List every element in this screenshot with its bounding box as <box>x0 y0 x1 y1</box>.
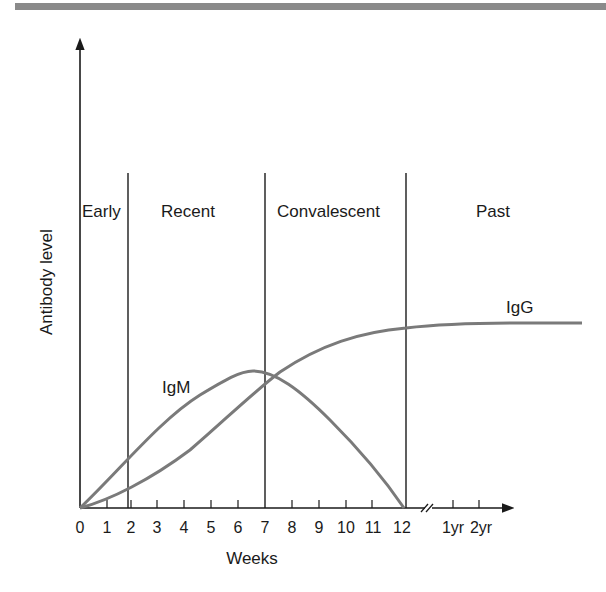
y-axis-label: Antibody level <box>37 229 56 335</box>
svg-text:0: 0 <box>76 519 85 536</box>
igg-curve <box>80 323 582 508</box>
svg-text:3: 3 <box>153 519 162 536</box>
svg-text:1: 1 <box>103 519 112 536</box>
phase-label-convalescent: Convalescent <box>277 202 380 221</box>
svg-text:6: 6 <box>234 519 243 536</box>
x-axis-ticks <box>107 500 479 508</box>
svg-text:8: 8 <box>288 519 297 536</box>
svg-text:5: 5 <box>207 519 216 536</box>
svg-text:1yr: 1yr <box>442 519 465 536</box>
x-tick-labels: 0 1 2 3 4 5 6 7 8 9 10 11 12 1yr 2yr <box>76 519 493 536</box>
phase-label-past: Past <box>476 202 510 221</box>
series-label-igg: IgG <box>506 298 533 317</box>
x-axis-label: Weeks <box>226 549 278 568</box>
svg-text:9: 9 <box>315 519 324 536</box>
phase-label-early: Early <box>82 202 121 221</box>
svg-text:2yr: 2yr <box>470 519 493 536</box>
svg-text:11: 11 <box>365 519 382 536</box>
phase-label-recent: Recent <box>161 202 215 221</box>
series-label-igm: IgM <box>162 378 190 397</box>
svg-text:12: 12 <box>393 519 411 536</box>
svg-text:10: 10 <box>337 519 355 536</box>
svg-text:4: 4 <box>180 519 189 536</box>
antibody-chart: Early Recent Convalescent Past IgM IgG A… <box>0 0 606 592</box>
svg-text:2: 2 <box>127 519 136 536</box>
svg-text:7: 7 <box>261 519 270 536</box>
